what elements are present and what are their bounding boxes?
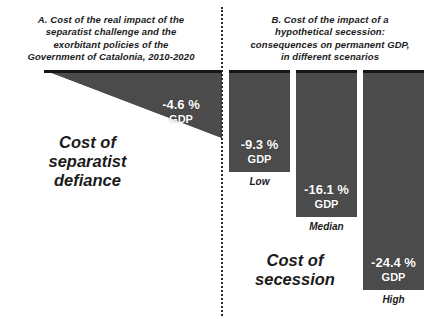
scenario-caption-high: High [363,294,424,305]
value-low-unit: GDP [229,152,290,166]
panel-b-title-line-3: consequences on permanent GDP, [230,39,430,51]
panel-divider [221,7,223,316]
panel-b-title-line-1: B. Cost of the impact of a [230,14,430,26]
value-defiance-unit: GDP [148,112,214,126]
panel-a-title-line-1: A. Cost of the real impact of the [8,14,214,26]
chart-figure: A. Cost of the real impact of the separa… [0,0,440,319]
scenario-caption-median: Median [296,221,357,232]
panel-b-title-line-2: hypothetical secession: [230,26,430,38]
panel-b-title: B. Cost of the impact of a hypothetical … [230,14,430,64]
panel-a-title: A. Cost of the real impact of the separa… [8,14,214,64]
value-high-unit: GDP [363,270,424,284]
caption-defiance-line-1: Cost of [10,133,165,152]
caption-defiance-line-3: defiance [10,171,165,190]
value-low-pct: -9.3 % [229,138,290,152]
wedge-top-rule [44,70,222,73]
caption-secession-line-2: secession [231,270,359,289]
value-high-pct: -24.4 % [363,256,424,270]
caption-separatist-defiance: Cost of separatist defiance [10,133,165,190]
scenario-caption-low: Low [229,176,290,187]
panel-a-title-line-4: Government of Catalonia, 2010-2020 [8,51,214,63]
value-label-high: -24.4 % GDP [363,256,424,284]
value-median-unit: GDP [296,197,357,211]
value-median-pct: -16.1 % [296,183,357,197]
caption-secession: Cost of secession [231,251,359,289]
panel-a-title-line-2: separatist challenge and the [8,26,214,38]
panel-b-title-line-4: in different scenarios [230,51,430,63]
value-label-median: -16.1 % GDP [296,183,357,211]
caption-defiance-line-2: separatist [10,152,165,171]
caption-secession-line-1: Cost of [231,251,359,270]
panel-a-title-line-3: exorbitant policies of the [8,39,214,51]
value-label-defiance: -4.6 % GDP [148,98,214,126]
value-defiance-pct: -4.6 % [148,98,214,112]
value-label-low: -9.3 % GDP [229,138,290,166]
